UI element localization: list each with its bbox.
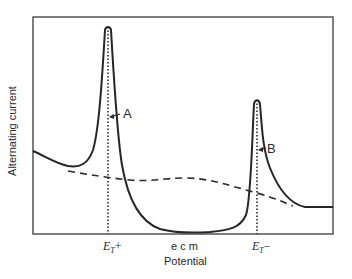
x-tick-et-minus-sign: − — [264, 239, 271, 253]
alternating-current-curve — [33, 27, 333, 233]
annotation-a: A — [123, 106, 132, 121]
chart-canvas — [0, 0, 352, 279]
plot-frame — [33, 17, 333, 234]
x-axis-label: Potential — [164, 255, 207, 267]
x-tick-et-plus: ET+ — [103, 239, 122, 255]
dashed-baseline-curve — [68, 171, 293, 206]
x-tick-et-plus-sign: + — [115, 239, 122, 253]
x-tick-ecm: e c m — [171, 240, 198, 252]
annotation-b: B — [267, 141, 276, 156]
y-axis-label: Alternating current — [6, 71, 18, 191]
arrow-a-head-icon — [109, 114, 114, 119]
arrow-b-head-icon — [258, 147, 263, 152]
x-tick-et-minus: ET− — [252, 239, 271, 255]
